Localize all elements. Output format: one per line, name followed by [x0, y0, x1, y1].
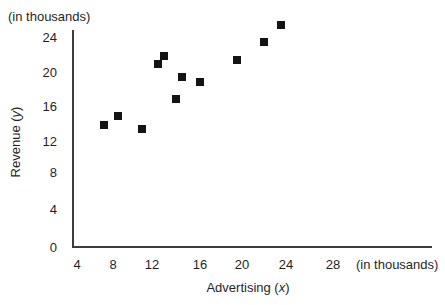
data-point — [114, 112, 122, 120]
x-tick-label: 20 — [227, 258, 257, 272]
y-tick-label: 0 — [27, 241, 57, 255]
x-axis-line — [72, 246, 432, 248]
data-point — [233, 56, 241, 64]
data-point — [154, 60, 162, 68]
x-tick-label: 24 — [271, 258, 301, 272]
data-point — [172, 95, 180, 103]
x-axis-title: Advertising (x) — [168, 281, 328, 295]
x-axis-unit-label: (in thousands) — [356, 258, 438, 272]
y-axis-title-var: y — [8, 111, 23, 118]
x-tick-label: 4 — [62, 258, 92, 272]
y-tick-label: 8 — [27, 166, 57, 180]
y-tick-label: 16 — [27, 100, 57, 114]
data-point — [196, 78, 204, 86]
y-tick-label: 24 — [27, 31, 57, 45]
scatter-chart: (in thousands) Revenue (y) 04812162024 4… — [0, 0, 445, 305]
y-axis-title-text: Revenue ( — [8, 117, 23, 177]
y-axis-title-close: ) — [8, 107, 23, 111]
data-point — [260, 38, 268, 46]
data-point — [178, 73, 186, 81]
y-axis-line — [72, 30, 74, 248]
y-axis-title: Revenue (y) — [9, 97, 25, 187]
data-point — [160, 52, 168, 60]
x-axis-title-close: ) — [285, 280, 289, 295]
x-tick-label: 28 — [318, 258, 348, 272]
y-tick-label: 20 — [27, 66, 57, 80]
y-tick-label: 12 — [27, 135, 57, 149]
data-point — [277, 21, 285, 29]
x-tick-label: 12 — [137, 258, 167, 272]
x-axis-title-text: Advertising ( — [206, 280, 278, 295]
data-point — [100, 121, 108, 129]
data-point — [138, 125, 146, 133]
y-tick-label: 4 — [27, 203, 57, 217]
x-tick-label: 8 — [98, 258, 128, 272]
y-axis-unit-label: (in thousands) — [8, 10, 90, 24]
x-tick-label: 16 — [185, 258, 215, 272]
